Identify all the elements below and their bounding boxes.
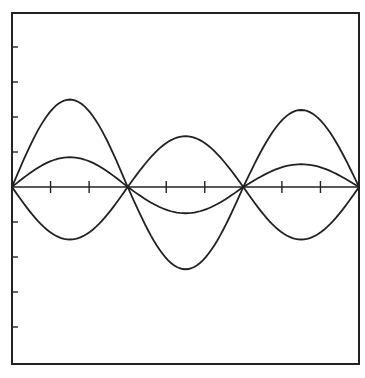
wave-curves xyxy=(12,100,359,270)
wave-curve-upper-inner xyxy=(128,187,244,213)
standing-wave-plot xyxy=(0,0,365,378)
wave-curve-lower-inner xyxy=(243,187,359,240)
wave-curve-upper-inner xyxy=(243,164,359,187)
wave-curve-lower-inner xyxy=(12,187,128,240)
wave-curve-upper-inner xyxy=(12,157,128,187)
plot-frame xyxy=(12,13,359,364)
wave-curve-upper-outer xyxy=(128,136,244,187)
wave-curve-upper-outer xyxy=(243,110,359,187)
